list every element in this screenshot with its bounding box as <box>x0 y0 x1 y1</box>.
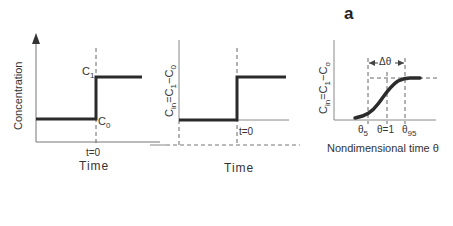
panel2-step-curve <box>179 77 286 120</box>
panel2-t0-label: t=0 <box>239 127 253 137</box>
theta5-label: θ5 <box>358 125 368 138</box>
theta95-label: θ95 <box>402 125 416 138</box>
panel1-c0-label: C0 <box>98 116 110 130</box>
panel1-ylabel: Concentration <box>13 62 24 131</box>
panel1-c1-label: C1 <box>82 66 94 80</box>
y-axis-arrow-icon <box>32 33 40 44</box>
panel3-sigmoid-curve <box>355 78 420 118</box>
panel3-axes <box>334 40 440 124</box>
panel1-t0-label: t=0 <box>86 148 100 158</box>
theta1-label: θ=1 <box>377 125 394 135</box>
panel-letter: a <box>344 5 353 22</box>
delta-theta-label: Δθ <box>379 57 391 67</box>
panel2-xlabel: Time <box>224 162 254 174</box>
panel3-ylabel: Cin=C1−Co <box>318 62 332 114</box>
diagram-canvas <box>0 0 453 226</box>
panel2-ylabel: Cin=C1−C0 <box>164 65 178 117</box>
panel3-xlabel: Nondimensional time θ <box>327 143 439 154</box>
panel1-xlabel: Time <box>79 160 109 172</box>
panel1-step-curve <box>36 77 142 119</box>
